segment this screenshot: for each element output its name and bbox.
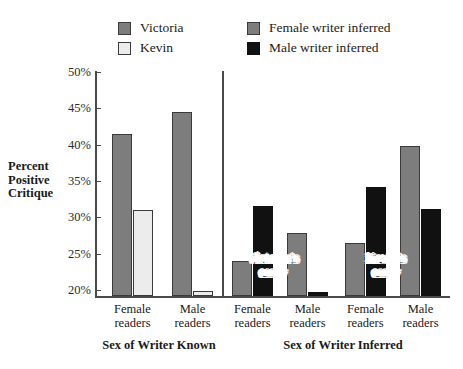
x-axis-category-label: Femalereaders (102, 302, 164, 330)
x-axis-category-label-line2: readers (335, 316, 397, 330)
x-axis-category-label-line2: readers (277, 316, 339, 330)
bar-annotation: Victoria'sessay (238, 252, 308, 279)
x-axis-category-label-line1: Male (162, 302, 224, 316)
x-axis-category-label: Femalereaders (335, 302, 397, 330)
x-axis-category-label: Malereaders (277, 302, 339, 330)
y-tick-label: 35% (44, 175, 91, 187)
bar-annotation-line2: essay (351, 266, 421, 280)
x-axis-category-label: Malereaders (390, 302, 452, 330)
legend-item-victoria: Victoria (118, 18, 183, 38)
x-axis-category-label-line2: readers (390, 316, 452, 330)
legend-label-kevin: Kevin (140, 41, 173, 55)
x-axis-category-label-line1: Female (222, 302, 284, 316)
bar-annotation: Kevin'sessay (351, 252, 421, 279)
bar-annotation-line1: Victoria's (238, 252, 308, 266)
y-tick-label: 30% (44, 211, 91, 223)
x-axis-category-label-line2: readers (162, 316, 224, 330)
legend-item-male-writer: Male writer inferred (247, 38, 390, 58)
y-axis-title-line1: Percent (8, 160, 80, 174)
bar-annotation-line2: essay (238, 266, 308, 280)
bar (366, 187, 386, 297)
x-axis-category-label-line1: Female (335, 302, 397, 316)
bar (133, 210, 153, 296)
legend-writer-inferred: Female writer inferred Male writer infer… (247, 18, 390, 58)
x-axis-category-label: Malereaders (162, 302, 224, 330)
bar-chart: Victoria Kevin Female writer inferred Ma… (0, 0, 463, 369)
x-axis-category-label-line2: readers (222, 316, 284, 330)
group-title-left: Sex of Writer Known (95, 338, 223, 352)
female-writer-swatch-icon (247, 22, 260, 35)
legend-label-female-writer: Female writer inferred (269, 21, 390, 35)
x-axis-category-label: Femalereaders (222, 302, 284, 330)
bar-annotation-line1: Kevin's (351, 252, 421, 266)
male-writer-swatch-icon (247, 42, 260, 55)
legend-item-female-writer: Female writer inferred (247, 18, 390, 38)
x-axis-category-label-line1: Male (277, 302, 339, 316)
x-axis-category-label-line2: readers (102, 316, 164, 330)
bar (308, 292, 328, 296)
kevin-swatch-icon (118, 42, 131, 55)
legend-writer-name: Victoria Kevin (118, 18, 183, 58)
legend-label-victoria: Victoria (140, 21, 183, 35)
y-tick-label: 20% (44, 284, 91, 296)
y-axis-title-line3: Critique (8, 187, 80, 201)
victoria-swatch-icon (118, 22, 131, 35)
bar (193, 291, 213, 296)
legend-label-male-writer: Male writer inferred (269, 41, 378, 55)
y-axis-line (95, 71, 97, 298)
legend-item-kevin: Kevin (118, 38, 183, 58)
group-title-right: Sex of Writer Inferred (232, 338, 454, 352)
y-tick-label: 50% (44, 66, 91, 78)
bar (112, 134, 132, 297)
bar (421, 209, 441, 297)
panel-divider-line (222, 71, 224, 298)
y-tick-label: 25% (44, 248, 91, 260)
y-tick-label: 45% (44, 102, 91, 114)
x-axis-category-label-line1: Male (390, 302, 452, 316)
bar (172, 112, 192, 297)
y-tick-label: 40% (44, 139, 91, 151)
x-axis-category-label-line1: Female (102, 302, 164, 316)
